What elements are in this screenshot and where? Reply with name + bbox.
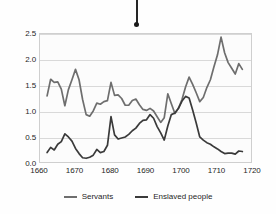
legend-swatch-icon bbox=[64, 196, 77, 199]
legend-entry-1[interactable]: Servants bbox=[64, 192, 114, 202]
chart-legend: ServantsEnslaved people bbox=[0, 190, 276, 204]
legend-entry-2[interactable]: Enslaved people bbox=[135, 192, 212, 202]
x-axis-labels: 1660167016801690170017101720 bbox=[0, 0, 276, 214]
legend-swatch-icon bbox=[135, 196, 148, 199]
x-tick-label: 1660 bbox=[24, 166, 54, 175]
x-tick-label: 1710 bbox=[202, 166, 232, 175]
x-tick-label: 1690 bbox=[131, 166, 161, 175]
x-tick-label: 1670 bbox=[60, 166, 90, 175]
legend-label: Servants bbox=[82, 192, 114, 202]
x-tick-label: 1680 bbox=[95, 166, 125, 175]
x-tick-label: 1720 bbox=[237, 166, 267, 175]
legend-label: Enslaved people bbox=[153, 192, 212, 202]
x-tick-label: 1700 bbox=[166, 166, 196, 175]
chart-figure: 0.00.51.01.52.02.5 166016701680169017001… bbox=[0, 0, 276, 214]
